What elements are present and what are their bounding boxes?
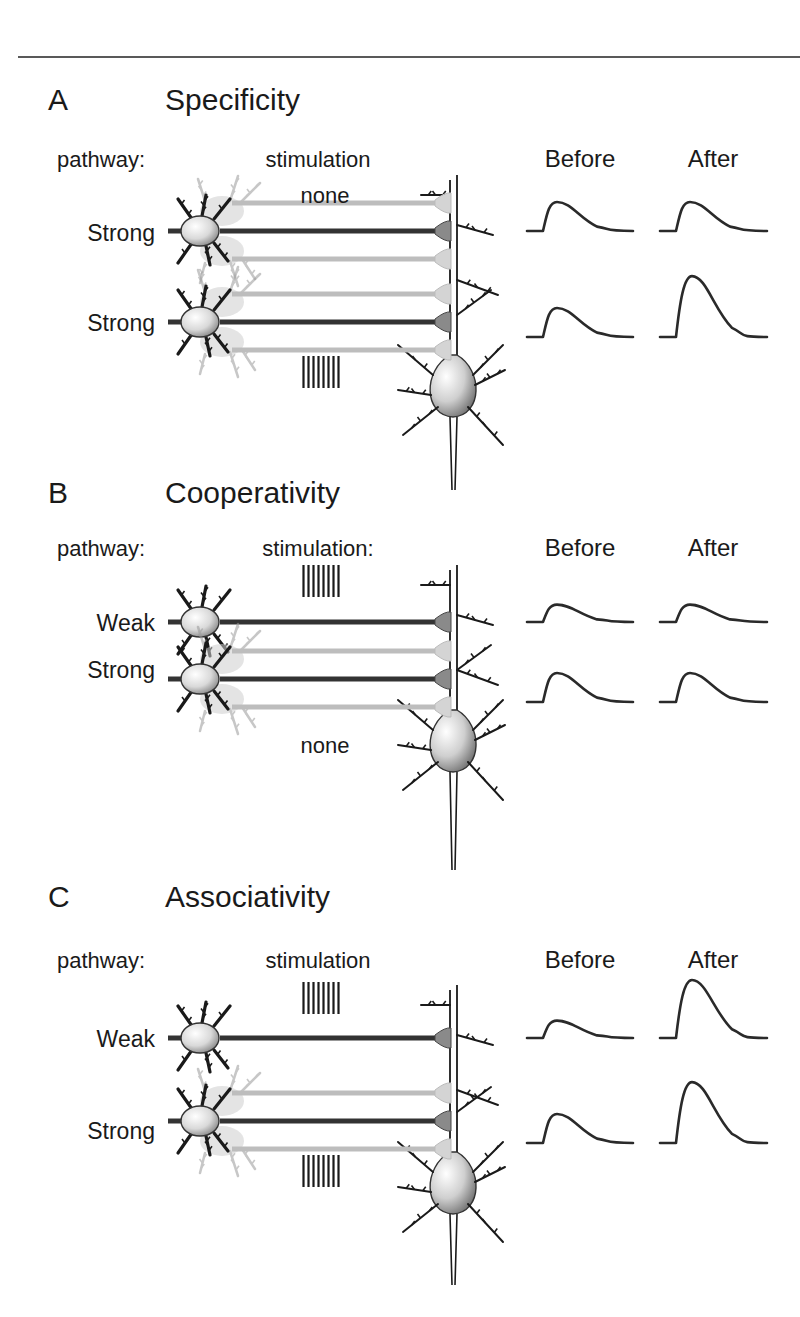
pathway-header: pathway: (57, 948, 145, 973)
ltp-properties-figure: ASpecificitypathway:stimulationBeforeAft… (0, 0, 800, 1317)
epsp-trace-after (660, 1082, 767, 1143)
panel-a: ASpecificitypathway:stimulationBeforeAft… (48, 83, 767, 490)
synaptic-bouton (435, 221, 451, 241)
synaptic-bouton (435, 641, 451, 661)
synaptic-bouton (435, 669, 451, 689)
column-header-before: Before (545, 534, 616, 561)
panel-letter: B (48, 476, 68, 509)
epsp-trace-after (660, 980, 767, 1038)
pathway-row: Strong (87, 176, 767, 286)
epsp-trace-before (527, 1021, 633, 1038)
epsp-trace-after (660, 673, 767, 702)
presynaptic-soma (181, 216, 219, 246)
stimulation-none-label: none (301, 183, 350, 208)
pathway-row: Weak (97, 586, 767, 656)
stimulus-train (304, 356, 339, 388)
pathway-row: Strong (87, 1066, 767, 1176)
epsp-trace-before (527, 673, 633, 702)
pathway-row: Strong (87, 267, 767, 377)
stimulus-train (304, 565, 339, 597)
stimulus-train (304, 1155, 339, 1187)
epsp-trace-before (527, 202, 633, 231)
pathway-label: Strong (87, 1118, 155, 1144)
stimulation-header: stimulation: (262, 536, 373, 561)
panel-letter: A (48, 83, 68, 116)
panel-b: BCooperativitypathway:stimulation:Before… (48, 476, 767, 870)
stimulation-none-label: none (301, 733, 350, 758)
pathway-header: pathway: (57, 147, 145, 172)
synaptic-bouton (435, 612, 451, 632)
column-header-after: After (688, 534, 739, 561)
epsp-trace-after (660, 202, 767, 231)
epsp-trace-after (660, 276, 767, 337)
synaptic-bouton (435, 1111, 451, 1131)
column-header-before: Before (545, 946, 616, 973)
panel-title: Cooperativity (165, 476, 340, 509)
column-header-before: Before (545, 145, 616, 172)
pathway-label: Strong (87, 657, 155, 683)
synaptic-bouton (435, 1139, 451, 1159)
synaptic-bouton (435, 284, 451, 304)
panel-letter: C (48, 880, 70, 913)
panel-title: Specificity (165, 83, 300, 116)
pathway-label: Strong (87, 220, 155, 246)
stimulation-header: stimulation (265, 147, 370, 172)
synaptic-bouton (435, 249, 451, 269)
epsp-trace-before (527, 308, 633, 337)
panel-title: Associativity (165, 880, 330, 913)
presynaptic-soma (181, 664, 219, 694)
column-header-after: After (688, 946, 739, 973)
synaptic-bouton (435, 1028, 451, 1048)
presynaptic-soma (181, 1106, 219, 1136)
presynaptic-soma (181, 1023, 219, 1053)
pathway-header: pathway: (57, 536, 145, 561)
pathway-label: Strong (87, 310, 155, 336)
synaptic-bouton (435, 340, 451, 360)
postsynaptic-neuron (398, 565, 505, 870)
pathway-label: Weak (97, 1026, 156, 1052)
synaptic-bouton (435, 312, 451, 332)
synaptic-bouton (435, 697, 451, 717)
stimulation-header: stimulation (265, 948, 370, 973)
epsp-trace-before (527, 1114, 633, 1143)
epsp-trace-after (660, 605, 767, 622)
column-header-after: After (688, 145, 739, 172)
synaptic-bouton (435, 1083, 451, 1103)
stimulus-train (304, 982, 339, 1014)
epsp-trace-before (527, 605, 633, 622)
pathway-row: Weak (97, 980, 767, 1072)
pathway-label: Weak (97, 610, 156, 636)
panel-c: CAssociativitypathway:stimulationBeforeA… (48, 880, 767, 1285)
presynaptic-soma (181, 307, 219, 337)
